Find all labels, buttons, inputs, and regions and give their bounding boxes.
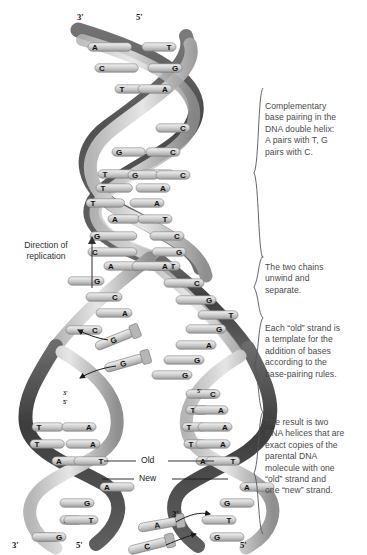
dna-replication-figure: ATCGTACGCTAGCTATAATGCCGATTATAATAGATCGGCT… xyxy=(0,0,367,555)
prime-top-left: 3' xyxy=(77,12,84,22)
prime-bottom-right-left: 3' xyxy=(172,509,179,519)
annotation-unwind: The two chains unwind and separate. xyxy=(265,262,367,296)
prime-fork-right: 5' xyxy=(197,388,202,394)
prime-bottom-left-right: 5' xyxy=(76,540,83,550)
label-new: New xyxy=(137,473,158,483)
prime-top-right: 5' xyxy=(136,12,143,22)
label-old: Old xyxy=(139,455,156,465)
prime-bottom-right-right: 5' xyxy=(240,540,247,550)
prime-fork-left-lower: 5' xyxy=(63,399,68,405)
annotation-complementary-pairing: Complementary base pairing in the DNA do… xyxy=(265,101,367,158)
annotation-template: Each “old” strand is a template for the … xyxy=(265,323,367,380)
annotation-result: The result is two DNA helices that are e… xyxy=(265,417,367,497)
prime-bottom-left-left: 3' xyxy=(12,540,19,550)
prime-fork-left-upper: 3' xyxy=(63,390,68,396)
